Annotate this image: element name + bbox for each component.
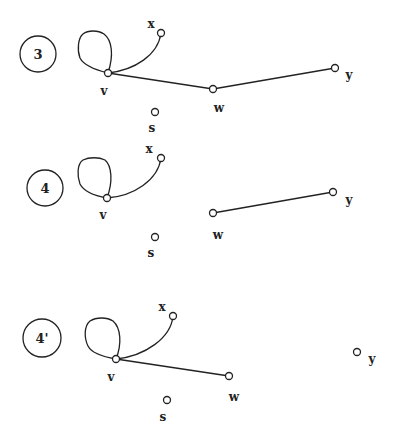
loop-edge bbox=[85, 318, 120, 359]
node-v bbox=[113, 356, 120, 363]
node-label-w: w bbox=[213, 101, 225, 115]
node-y bbox=[332, 65, 339, 72]
node-label-w: w bbox=[228, 390, 240, 404]
node-v bbox=[105, 70, 112, 77]
node-label-y: y bbox=[368, 352, 377, 366]
node-s bbox=[164, 397, 171, 404]
loop-edge bbox=[78, 158, 111, 198]
panel-label: 4' bbox=[35, 331, 48, 346]
graph-diagram: 3 x v w y s 4 x v w y s 4' x v w y s bbox=[0, 0, 397, 441]
node-label-v: v bbox=[99, 208, 108, 222]
node-w bbox=[226, 373, 233, 380]
edge-w-y bbox=[213, 68, 335, 89]
node-label-v: v bbox=[107, 370, 116, 384]
node-v bbox=[104, 195, 111, 202]
node-label-v: v bbox=[100, 84, 109, 98]
edge-v-x bbox=[116, 316, 173, 359]
node-x bbox=[158, 155, 165, 162]
node-label-s: s bbox=[160, 410, 167, 424]
node-label-y: y bbox=[345, 68, 354, 82]
node-x bbox=[170, 313, 177, 320]
node-label-x: x bbox=[145, 142, 153, 156]
panel-4 bbox=[27, 155, 337, 241]
node-label-x: x bbox=[147, 17, 155, 31]
node-label-w: w bbox=[212, 228, 224, 242]
loop-edge bbox=[78, 31, 111, 73]
panel-3 bbox=[20, 30, 339, 116]
edge-v-w bbox=[116, 359, 229, 376]
node-x bbox=[158, 30, 165, 37]
node-s bbox=[152, 109, 159, 116]
node-y bbox=[354, 349, 361, 356]
node-label-s: s bbox=[148, 246, 155, 260]
edge-w-y bbox=[213, 192, 333, 213]
node-label-x: x bbox=[158, 300, 166, 314]
node-label-y: y bbox=[345, 193, 354, 207]
edge-v-x bbox=[107, 158, 161, 198]
node-w bbox=[210, 210, 217, 217]
edge-v-x bbox=[108, 33, 161, 73]
panel-4prime bbox=[23, 313, 361, 404]
node-y bbox=[330, 189, 337, 196]
edge-v-w bbox=[108, 73, 213, 89]
node-s bbox=[152, 234, 159, 241]
panel-label: 3 bbox=[33, 47, 42, 62]
node-w bbox=[210, 86, 217, 93]
panel-label: 4 bbox=[40, 181, 49, 196]
node-label-s: s bbox=[149, 121, 156, 135]
